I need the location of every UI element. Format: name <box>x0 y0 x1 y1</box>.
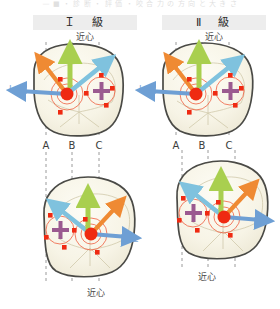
vector-blue-upper-right <box>149 91 196 94</box>
panel-class2-lower-occlusal <box>177 150 268 268</box>
panel-class1-lower-occlusal <box>44 152 135 284</box>
vector-blue-upper-left <box>20 91 67 94</box>
tooth-diagram-canvas <box>0 0 280 309</box>
panel-class1-upper-occlusal <box>20 42 123 137</box>
panel-class2-upper-occlusal <box>149 42 253 137</box>
occlusal-force-diagram: — ■ ・ 診 断 ・ 評 価 ・ 咬 合 力 の 方 向 と 大 き さ Ｉ … <box>0 0 280 309</box>
